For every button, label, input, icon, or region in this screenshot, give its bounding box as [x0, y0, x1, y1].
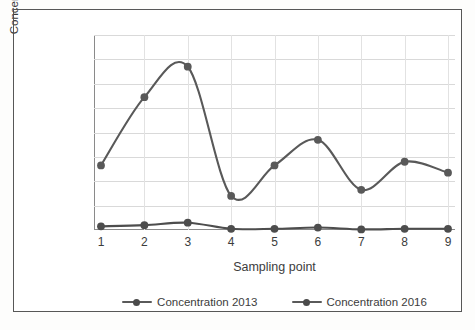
legend-label: Concentration 2013 [157, 296, 257, 308]
x-tick-label: 7 [358, 235, 365, 249]
data-point [357, 186, 365, 194]
data-point [271, 225, 279, 233]
data-point [97, 222, 105, 230]
data-point [140, 221, 148, 229]
legend-item-2016[interactable]: Concentration 2016 [292, 296, 427, 308]
data-point [97, 162, 105, 170]
chart-figure: Concentratio (cmol·kg-1) 123456789 00.02… [0, 0, 475, 330]
legend-marker-icon [122, 297, 152, 307]
chart-legend: Concentration 2013 Concentration 2016 [94, 296, 455, 308]
figure-frame: Concentratio (cmol·kg-1) 123456789 00.02… [13, 9, 462, 312]
y-axis-title: Concentratio (cmol·kg-1) [8, 0, 20, 56]
x-tick-label: 5 [271, 235, 278, 249]
x-tick-label: 9 [445, 235, 452, 249]
data-point [357, 225, 365, 233]
data-point [401, 158, 409, 166]
x-tick-label: 1 [98, 235, 105, 249]
data-point [227, 192, 235, 200]
data-point [227, 225, 235, 233]
data-point [401, 225, 409, 233]
legend-label: Concentration 2016 [327, 296, 427, 308]
data-point [184, 219, 192, 227]
plot-area: 123456789 [94, 35, 455, 230]
legend-marker-icon [292, 297, 322, 307]
x-tick-label: 2 [141, 235, 148, 249]
x-tick-label: 4 [228, 235, 235, 249]
data-point [140, 93, 148, 101]
series-line-2013 [101, 62, 448, 200]
data-point [184, 63, 192, 71]
x-axis-title: Sampling point [94, 260, 455, 274]
x-tick-label: 3 [184, 235, 191, 249]
legend-item-2013[interactable]: Concentration 2013 [122, 296, 257, 308]
x-tick-label: 8 [401, 235, 408, 249]
series-lines [94, 35, 455, 230]
data-point [314, 136, 322, 144]
data-point [271, 162, 279, 170]
data-point [444, 225, 452, 233]
x-tick-label: 6 [315, 235, 322, 249]
data-point [444, 169, 452, 177]
data-point [314, 224, 322, 232]
